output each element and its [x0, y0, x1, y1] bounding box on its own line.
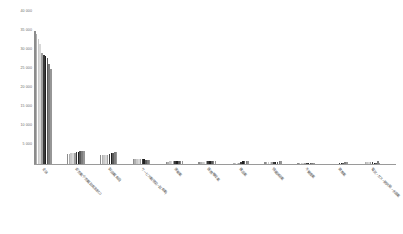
bar-group [198, 12, 216, 164]
bar-group [166, 12, 184, 164]
x-axis-tick-label: 情報通信業 [271, 168, 284, 181]
y-axis-tick-label: 20 000 [20, 86, 32, 90]
bar[interactable] [116, 152, 118, 164]
y-axis-tick-label: 5 000 [23, 143, 33, 147]
y-axis-tick-label: 30 000 [20, 48, 32, 52]
y-axis: 40 00035 00030 00025 00020 00015 00010 0… [0, 0, 34, 234]
y-axis-tick-label: 10 000 [20, 124, 32, 128]
bar-group [34, 12, 52, 164]
bar-group [231, 12, 249, 164]
bar-group [67, 12, 85, 164]
x-axis-tick-label: 教育業 [337, 168, 346, 177]
y-axis-tick-label: 15 000 [20, 105, 32, 109]
y-axis-tick-label: 25 000 [20, 67, 32, 71]
bar[interactable] [83, 151, 85, 164]
x-axis-tick-label: 建設業 [238, 168, 247, 177]
bar-chart: 40 00035 00030 00025 00020 00015 00010 0… [0, 0, 403, 234]
x-axis-tick-label: 卸売業,小売業(飲食店含む) [73, 168, 101, 196]
bar-group [264, 12, 282, 164]
x-axis-tick-label: 不動産業 [304, 168, 315, 179]
x-axis-tick-label: 製造業(食品) [106, 168, 121, 183]
bar-groups [34, 12, 396, 164]
x-axis-tick-label: サービス業(宿泊・飲食業) [139, 168, 166, 195]
bar-group [100, 12, 118, 164]
x-axis-tick-label: 電気・ガス・熱供給・水道業 [370, 168, 400, 198]
x-axis-tick-label: 医療,福祉業 [205, 168, 219, 182]
x-axis-tick-label: 全体 [41, 168, 48, 175]
bar[interactable] [50, 69, 52, 164]
bar-group [133, 12, 151, 164]
plot-area [34, 12, 396, 164]
x-axis-tick-label: 運輸業 [172, 168, 181, 177]
bar-group [297, 12, 315, 164]
bar-group [330, 12, 348, 164]
y-axis-tick-label: 35 000 [20, 29, 32, 33]
x-axis: 全体卸売業,小売業(飲食店含む)製造業(食品)サービス業(宿泊・飲食業)運輸業医… [34, 164, 396, 234]
y-axis-tick-label: 40 000 [20, 10, 32, 14]
bar-group [363, 12, 381, 164]
